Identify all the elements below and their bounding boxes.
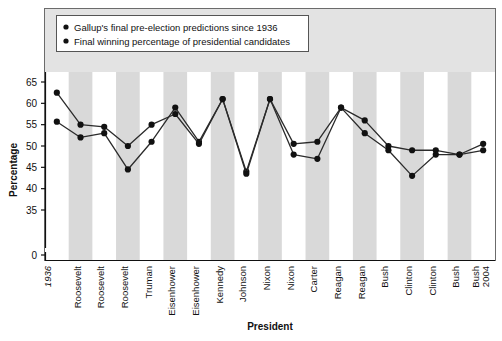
chart-canvas: 035404550556065 1936RooseveltRooseveltRo… xyxy=(0,0,502,341)
data-point-marker xyxy=(362,130,368,136)
category-stripe xyxy=(69,72,93,260)
legend-marker-predictions xyxy=(63,24,68,29)
chart-legend: Gallup's final pre-election predictions … xyxy=(57,16,309,52)
y-axis-tick-label: 35 xyxy=(26,205,38,216)
y-axis-tick-label: 0 xyxy=(31,250,37,261)
x-axis-category-label: Eisenhower xyxy=(190,266,201,316)
y-axis-tick-label: 60 xyxy=(26,98,38,109)
category-stripe xyxy=(306,72,330,260)
data-point-marker xyxy=(480,141,486,147)
x-axis-category-label: Roosevelt xyxy=(119,266,130,309)
x-axis-category-label: Kennedy xyxy=(214,266,225,304)
x-axis-category-label: Reagan xyxy=(356,266,367,299)
x-axis-category-label: 1936 xyxy=(42,265,53,287)
data-point-marker xyxy=(314,156,320,162)
gallup-prediction-line-chart: 035404550556065 1936RooseveltRooseveltRo… xyxy=(0,0,502,341)
x-axis-category-label: Nixon xyxy=(261,266,272,290)
y-axis-title: Percentage xyxy=(8,143,19,197)
legend-label-final-percentage: Final winning percentage of presidential… xyxy=(74,36,290,47)
data-point-marker xyxy=(54,119,60,125)
legend-label-predictions: Gallup's final pre-election predictions … xyxy=(74,22,278,33)
data-point-marker xyxy=(196,141,202,147)
data-point-marker xyxy=(148,139,154,145)
category-stripe xyxy=(353,72,377,260)
x-axis-category-label: Clinton xyxy=(427,266,438,296)
x-axis-category-label: 2004 xyxy=(480,266,491,287)
data-point-marker xyxy=(172,105,178,111)
x-axis-category-label: Nixon xyxy=(285,266,296,290)
data-point-marker xyxy=(243,171,249,177)
x-axis-category-labels: 1936RooseveltRooseveltRooseveltTrumanEis… xyxy=(42,265,491,315)
y-axis-tick-label: 40 xyxy=(26,183,38,194)
data-point-marker xyxy=(101,130,107,136)
category-stripe xyxy=(448,72,472,260)
y-axis-tick-label: 50 xyxy=(26,141,38,152)
x-axis-category-label: Bush xyxy=(450,266,461,288)
data-point-marker xyxy=(54,90,60,96)
data-point-marker xyxy=(456,151,462,157)
data-point-marker xyxy=(338,105,344,111)
category-stripe xyxy=(163,72,187,260)
data-point-marker xyxy=(409,173,415,179)
x-axis-title: President xyxy=(247,321,293,332)
x-axis-category-label: Carter xyxy=(308,266,319,292)
data-point-marker xyxy=(362,117,368,123)
data-point-marker xyxy=(125,143,131,149)
y-axis-tick-label: 55 xyxy=(26,119,38,130)
data-point-marker xyxy=(148,122,154,128)
data-point-marker xyxy=(172,111,178,117)
data-point-marker xyxy=(125,166,131,172)
x-axis-category-label: Reagan xyxy=(332,266,343,299)
data-point-marker xyxy=(291,141,297,147)
x-axis-category-label: Roosevelt xyxy=(72,266,83,309)
data-point-marker xyxy=(101,124,107,130)
data-point-marker xyxy=(291,151,297,157)
data-point-marker xyxy=(220,96,226,102)
y-axis-ticks: 035404550556065 xyxy=(26,77,45,261)
data-point-marker xyxy=(385,143,391,149)
data-point-marker xyxy=(267,96,273,102)
x-axis-category-label: Eisenhower xyxy=(166,266,177,316)
y-axis-tick-label: 45 xyxy=(26,162,38,173)
x-axis-category-label: Bush xyxy=(379,266,390,288)
x-axis-category-label: Truman xyxy=(143,266,154,298)
y-axis-tick-label: 65 xyxy=(26,77,38,88)
x-axis-category-label: Roosevelt xyxy=(95,266,106,309)
category-stripe xyxy=(116,72,140,260)
data-point-marker xyxy=(77,122,83,128)
x-axis-category-label: Clinton xyxy=(403,266,414,296)
data-point-marker xyxy=(314,139,320,145)
x-axis-category-label: Johnson xyxy=(237,266,248,302)
data-point-marker xyxy=(480,147,486,153)
data-point-marker xyxy=(433,147,439,153)
data-point-marker xyxy=(77,134,83,140)
legend-marker-final-percentage xyxy=(63,38,68,43)
data-point-marker xyxy=(409,147,415,153)
